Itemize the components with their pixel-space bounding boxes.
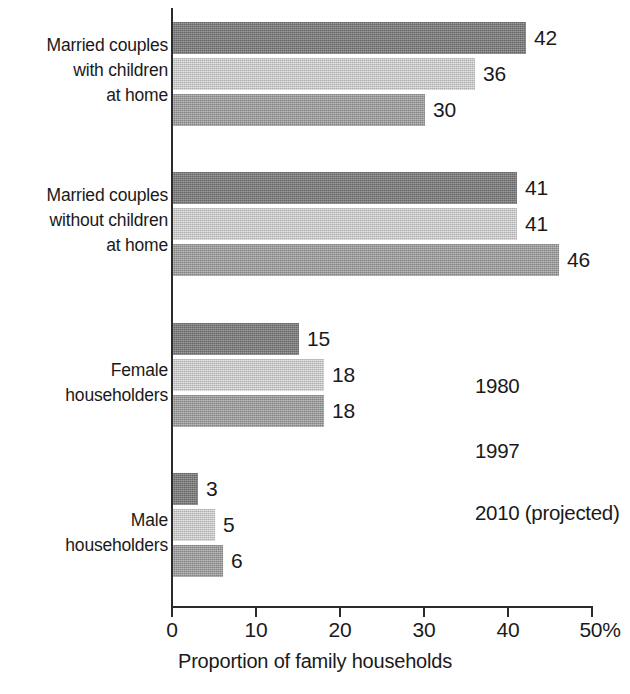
bar-married-with-children-1980 <box>173 22 526 54</box>
legend-label-2010: 2010 (projected) <box>475 492 620 533</box>
category-label-married-without-children: Married couples without children at home <box>47 183 169 258</box>
bar-female-householders-2010 <box>173 395 324 427</box>
bar-value-married-without-children-1997: 41 <box>525 208 548 240</box>
bar-value-male-householders-1997: 5 <box>223 509 234 541</box>
x-axis-tick-30 <box>423 608 425 617</box>
bar-female-householders-1997 <box>173 359 324 391</box>
bar-chart: 0 10 20 30 40 50% Married couples with c… <box>0 0 630 694</box>
legend-swatch-1997 <box>420 430 461 471</box>
x-axis-tick-50 <box>591 608 593 617</box>
bar-married-without-children-1980 <box>173 172 517 204</box>
x-axis-tick-40 <box>507 608 509 617</box>
bar-married-without-children-2010 <box>173 244 559 276</box>
bar-value-married-with-children-1997: 36 <box>483 58 506 90</box>
bar-value-male-householders-1980: 3 <box>206 473 217 505</box>
bar-value-married-without-children-2010: 46 <box>567 244 590 276</box>
category-label-female-householders: Female householders <box>65 358 168 408</box>
bar-value-male-householders-2010: 6 <box>231 545 242 577</box>
x-axis-tick-label-40: 40 <box>497 618 520 642</box>
bar-value-married-with-children-1980: 42 <box>534 22 557 54</box>
legend-swatch-1980 <box>420 365 461 406</box>
bar-married-with-children-1997 <box>173 58 475 90</box>
x-axis-tick-label-30: 30 <box>413 618 436 642</box>
x-axis-tick-label-10: 10 <box>245 618 268 642</box>
legend-swatch-2010 <box>420 492 461 533</box>
x-axis-tick-label-0: 0 <box>166 618 177 642</box>
category-label-male-householders: Male householders <box>65 508 168 558</box>
x-axis-tick-20 <box>339 608 341 617</box>
bar-value-female-householders-1997: 18 <box>332 359 355 391</box>
bar-married-without-children-1997 <box>173 208 517 240</box>
x-axis-tick-label-20: 20 <box>329 618 352 642</box>
x-axis-tick-10 <box>255 608 257 617</box>
x-axis-title: Proportion of family households <box>0 650 630 673</box>
bar-married-with-children-2010 <box>173 94 425 126</box>
legend-label-1980: 1980 <box>475 365 519 406</box>
bar-value-married-with-children-2010: 30 <box>433 94 456 126</box>
category-label-married-with-children: Married couples with children at home <box>47 33 169 108</box>
bar-male-householders-1997 <box>173 509 215 541</box>
x-axis-tick-label-50: 50% <box>579 618 620 642</box>
bar-value-female-householders-2010: 18 <box>332 395 355 427</box>
bar-value-female-householders-1980: 15 <box>307 323 330 355</box>
bar-value-married-without-children-1980: 41 <box>525 172 548 204</box>
x-axis-line <box>171 606 593 608</box>
legend-label-1997: 1997 <box>475 430 519 471</box>
bar-female-householders-1980 <box>173 323 299 355</box>
x-axis-tick-0 <box>171 608 173 617</box>
bar-male-householders-2010 <box>173 545 223 577</box>
bar-male-householders-1980 <box>173 473 198 505</box>
